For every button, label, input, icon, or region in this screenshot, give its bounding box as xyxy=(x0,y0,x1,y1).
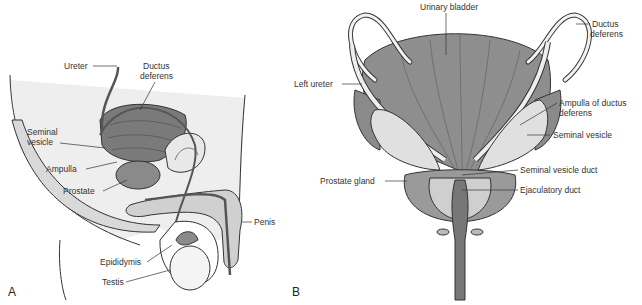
label-ureter: Ureter xyxy=(64,61,88,71)
panel-letter-a: A xyxy=(8,285,16,299)
label-left-ureter: Left ureter xyxy=(294,79,333,89)
label-seminal-vesicle-line2: vesicle xyxy=(27,137,53,147)
label-seminal-vesicle-b: Seminal vesicle xyxy=(553,130,612,140)
label-prostate-gland: Prostate gland xyxy=(320,176,375,186)
label-ampulla: Ampulla xyxy=(46,164,77,174)
label-penis: Penis xyxy=(254,217,275,227)
label-seminal-vesicle-duct: Seminal vesicle duct xyxy=(520,165,597,175)
label-ampulla-of-ductus-line2: deferens xyxy=(559,108,592,118)
label-epididymis: Epididymis xyxy=(100,257,141,267)
label-ductus-deferens-b-line1: Ductus xyxy=(592,19,618,29)
label-seminal-vesicle-line1: Seminal xyxy=(27,127,58,137)
label-ejaculatory-duct: Ejaculatory duct xyxy=(520,185,580,195)
label-ampulla-of-ductus-line1: Ampulla of ductus xyxy=(559,98,627,108)
label-ductus-deferens-b-line2: deferens xyxy=(590,29,623,39)
panel-letter-b: B xyxy=(292,285,300,299)
label-ductus-deferens-line2: deferens xyxy=(140,71,173,81)
label-ductus-deferens-line1: Ductus xyxy=(143,61,169,71)
panel-b-drawing xyxy=(351,15,590,300)
label-prostate: Prostate xyxy=(63,186,95,196)
label-urinary-bladder: Urinary bladder xyxy=(420,2,478,12)
anatomy-illustration xyxy=(0,0,642,305)
label-testis: Testis xyxy=(102,277,124,287)
